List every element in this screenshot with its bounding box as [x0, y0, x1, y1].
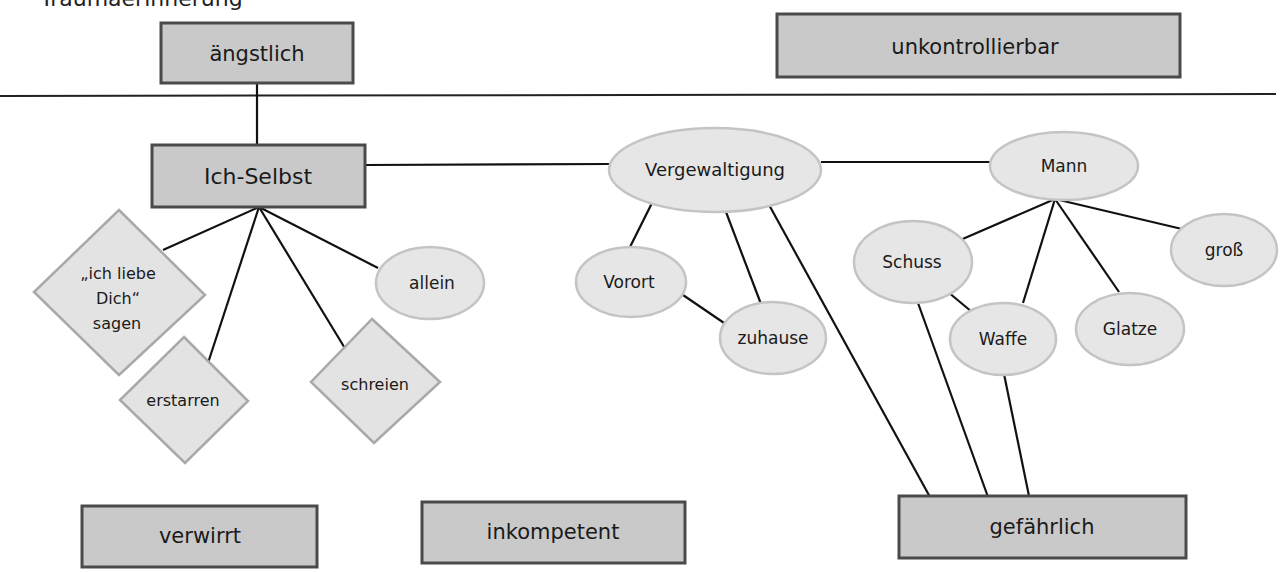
- edge-vergewaltigung-zuhause: [726, 212, 761, 304]
- edge-ich-selbst-vergewaltigung: [365, 164, 609, 165]
- zuhause-label: zuhause: [738, 328, 809, 348]
- node-ich-selbst: Ich-Selbst: [152, 145, 365, 207]
- aengstlich-label: ängstlich: [209, 42, 304, 66]
- vorort-label: Vorort: [603, 272, 655, 292]
- erstarren-label: erstarren: [146, 391, 219, 410]
- edge-mann-schuss: [958, 199, 1055, 241]
- edge-mann-gross: [1055, 199, 1182, 229]
- edge-schuss-waffe: [948, 292, 972, 312]
- ich-liebe-dich-label-line1: „ich liebe: [80, 264, 156, 283]
- edge-ich-selbst-ich-liebe-dich: [163, 207, 259, 250]
- glatze-label: Glatze: [1103, 319, 1157, 339]
- schreien-label: schreien: [341, 375, 409, 394]
- unkontrollierbar-label: unkontrollierbar: [891, 35, 1059, 59]
- mann-label: Mann: [1041, 156, 1088, 176]
- inkompetent-label: inkompetent: [487, 520, 620, 544]
- node-waffe: Waffe: [950, 303, 1056, 375]
- node-gefaehrlich: gefährlich: [899, 496, 1186, 558]
- node-vorort: Vorort: [576, 247, 686, 317]
- verwirrt-label: verwirrt: [159, 524, 241, 548]
- edge-vorort-zuhause: [683, 295, 727, 325]
- gefaehrlich-label: gefährlich: [990, 515, 1095, 539]
- ich-selbst-label: Ich-Selbst: [204, 164, 313, 189]
- node-inkompetent: inkompetent: [422, 502, 685, 563]
- schuss-label: Schuss: [882, 252, 942, 272]
- node-vergewaltigung: Vergewaltigung: [609, 128, 821, 212]
- node-aengstlich: ängstlich: [161, 23, 353, 83]
- vergewaltigung-label: Vergewaltigung: [645, 159, 785, 180]
- node-unkontrollierbar: unkontrollierbar: [777, 14, 1180, 77]
- waffe-label: Waffe: [979, 329, 1027, 349]
- ich-liebe-dich-label-line3: sagen: [93, 314, 141, 333]
- node-schreien: schreien: [311, 319, 440, 443]
- gross-label: groß: [1205, 240, 1244, 260]
- edge-ich-selbst-erstarren: [208, 207, 259, 363]
- node-allein: allein: [376, 247, 484, 319]
- edge-waffe-gefaehrlich: [1004, 374, 1029, 496]
- edge-vergewaltigung-vorort: [630, 203, 652, 247]
- node-zuhause: zuhause: [720, 302, 826, 374]
- node-gross: groß: [1171, 214, 1277, 286]
- node-glatze: Glatze: [1076, 293, 1184, 365]
- edge-mann-waffe: [1023, 199, 1055, 303]
- horizontal-divider: [0, 94, 1276, 96]
- node-mann: Mann: [990, 132, 1138, 200]
- node-schuss: Schuss: [854, 221, 972, 303]
- node-verwirrt: verwirrt: [82, 506, 317, 567]
- allein-label: allein: [409, 273, 455, 293]
- ich-liebe-dich-label-line2: Dich“: [96, 289, 140, 308]
